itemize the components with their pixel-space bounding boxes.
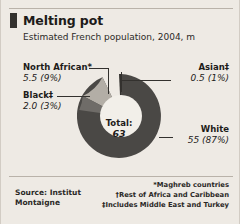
footnotes: *Maghreb countries †Rest of Africa and C… (102, 181, 229, 211)
leader-line-north-african-h (89, 68, 109, 69)
footnote-3: ‡Includes Middle East and Turkey (102, 201, 229, 211)
callout-north-african-label: North African* (23, 62, 92, 73)
source-note: Source: Institut Montaigne (15, 188, 95, 208)
donut-hole (100, 95, 142, 137)
leader-line-black (57, 96, 90, 97)
callout-white-label: White (188, 124, 229, 135)
callout-north-african: North African* 5.5 (9%) (23, 62, 92, 84)
leader-line-asian-h (121, 80, 171, 81)
callout-black: Black‡ 2.0 (3%) (23, 90, 61, 112)
leader-line-asian-v (121, 72, 122, 92)
callout-asian-label: Asian‡ (191, 62, 229, 73)
leader-line-white (159, 137, 173, 138)
chart-figure: Melting pot Estimated French population,… (0, 0, 240, 224)
callout-white-value: 55 (87%) (188, 135, 229, 146)
callout-north-african-value: 5.5 (9%) (23, 73, 92, 84)
footnote-2: †Rest of Africa and Caribbean (102, 191, 229, 201)
footnote-1: *Maghreb countries (102, 181, 229, 191)
callout-black-value: 2.0 (3%) (23, 101, 61, 112)
footer-divider (9, 176, 233, 177)
callout-white: White 55 (87%) (188, 124, 229, 146)
leader-line-north-african-v (108, 68, 109, 94)
callout-asian-value: 0.5 (1%) (191, 73, 229, 84)
callout-black-label: Black‡ (23, 90, 61, 101)
callout-asian: Asian‡ 0.5 (1%) (191, 62, 229, 84)
